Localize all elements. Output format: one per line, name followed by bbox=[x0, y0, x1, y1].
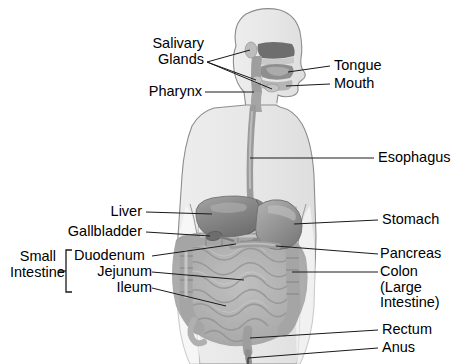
label-small-intestine: SmallIntestine bbox=[10, 249, 56, 280]
label-colon: Colon(LargeIntestine) bbox=[380, 264, 440, 311]
label-esophagus: Esophagus bbox=[378, 150, 451, 166]
label-tongue: Tongue bbox=[334, 58, 382, 74]
label-gallbladder: Gallbladder bbox=[56, 224, 142, 240]
label-ileum: Ileum bbox=[74, 280, 152, 296]
label-mouth: Mouth bbox=[334, 76, 374, 92]
label-colon-line3: Intestine) bbox=[380, 294, 440, 310]
label-colon-line1: Colon bbox=[380, 263, 418, 279]
label-salivary-glands: SalivaryGlands bbox=[64, 36, 204, 67]
label-liver: Liver bbox=[84, 204, 142, 220]
label-jejunum: Jejunum bbox=[74, 264, 152, 280]
label-salivary-glands-line1: Salivary bbox=[152, 35, 204, 51]
label-pancreas: Pancreas bbox=[380, 246, 441, 262]
label-small-intestine-line2: Intestine bbox=[10, 264, 65, 280]
label-duodenum: Duodenum bbox=[74, 248, 154, 264]
label-salivary-glands-line2: Glands bbox=[158, 51, 204, 67]
label-rectum: Rectum bbox=[382, 322, 432, 338]
label-small-intestine-line1: Small bbox=[20, 248, 56, 264]
label-stomach: Stomach bbox=[382, 212, 439, 228]
label-colon-line2: (Large bbox=[380, 279, 422, 295]
label-anus: Anus bbox=[382, 340, 415, 356]
label-pharynx: Pharynx bbox=[104, 84, 202, 100]
